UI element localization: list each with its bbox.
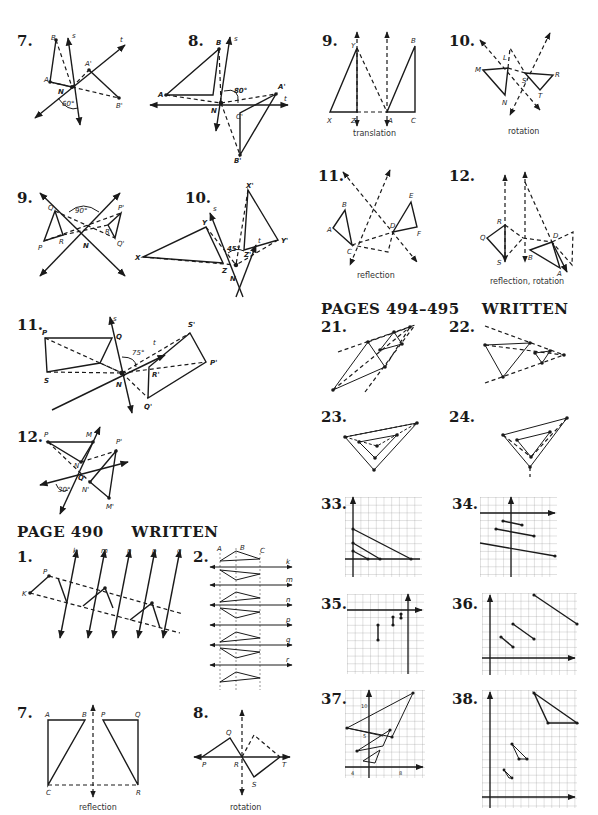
svg-text:t: t <box>120 36 123 44</box>
figure-21 <box>330 322 420 397</box>
figure-right-12: QR SD BA <box>475 170 585 275</box>
svg-text:C: C <box>46 789 51 797</box>
svg-text:n: n <box>286 596 290 604</box>
figure-left-7: BA A'B' N st 60° <box>30 30 140 130</box>
svg-text:M': M' <box>106 503 114 511</box>
svg-text:P': P' <box>210 359 217 367</box>
svg-text:N: N <box>83 242 89 250</box>
figure-right-9: XY ZA BC <box>325 30 425 130</box>
svg-text:Q': Q' <box>117 240 125 248</box>
svg-text:5: 5 <box>363 733 366 739</box>
svg-text:P: P <box>101 711 106 719</box>
svg-text:B: B <box>216 39 221 47</box>
svg-text:p: p <box>151 547 157 555</box>
graph-33 <box>345 497 422 577</box>
svg-text:Y: Y <box>202 219 208 227</box>
figure-left-11: PQ SN S'P' R'Q' ts 75° <box>40 315 220 415</box>
svg-text:Y': Y' <box>281 237 288 245</box>
svg-text:X: X <box>326 117 332 125</box>
svg-text:q: q <box>177 547 182 555</box>
svg-text:R': R' <box>105 228 112 236</box>
svg-text:s: s <box>72 32 76 40</box>
svg-text:C: C <box>347 248 352 256</box>
svg-text:D: D <box>553 232 559 240</box>
svg-text:D: D <box>390 222 396 230</box>
svg-text:80°: 80° <box>234 87 247 95</box>
svg-text:Z': Z' <box>243 251 251 259</box>
svg-text:P': P' <box>118 204 124 212</box>
figure-24 <box>500 415 580 480</box>
svg-text:s: s <box>234 35 238 43</box>
exercise-number: 9. <box>17 189 33 207</box>
svg-text:A': A' <box>84 60 92 68</box>
caption: reflection <box>357 271 395 280</box>
svg-text:Z: Z <box>221 267 228 275</box>
svg-text:k: k <box>286 558 291 566</box>
svg-text:60°: 60° <box>62 100 74 108</box>
svg-text:r: r <box>286 656 290 664</box>
svg-text:90°: 90° <box>75 207 87 215</box>
exercise-number: 7. <box>17 704 33 722</box>
svg-text:B': B' <box>234 157 241 165</box>
svg-text:Q': Q' <box>144 403 152 411</box>
exercise-number: 38. <box>452 690 478 708</box>
svg-text:A: A <box>326 226 332 234</box>
svg-text:X': X' <box>245 182 254 190</box>
svg-text:K: K <box>22 590 28 598</box>
svg-text:s: s <box>113 315 117 323</box>
svg-text:C: C <box>260 547 265 555</box>
svg-text:P: P <box>202 761 207 769</box>
exercise-number: 24. <box>449 408 475 426</box>
svg-text:B: B <box>528 254 533 262</box>
svg-text:B: B <box>240 544 245 552</box>
svg-text:10: 10 <box>361 703 367 709</box>
exercise-number: 2. <box>193 548 209 566</box>
svg-text:30°: 30° <box>58 486 70 494</box>
figure-22 <box>482 323 572 388</box>
svg-text:P: P <box>42 329 48 337</box>
figure-w-1: KP km np q <box>25 548 185 643</box>
svg-text:P: P <box>43 568 48 576</box>
svg-text:Q: Q <box>135 711 141 719</box>
figure-right-11: AB CD EF <box>325 170 425 270</box>
svg-text:N: N <box>116 381 122 389</box>
figure-w-7: AB PQ CR <box>40 705 150 800</box>
triangle-stack <box>210 551 292 682</box>
graph-38 <box>482 690 577 808</box>
svg-text:R: R <box>234 761 239 769</box>
svg-text:T: T <box>538 92 543 100</box>
svg-text:A: A <box>43 76 49 84</box>
svg-text:R: R <box>555 71 560 79</box>
svg-text:P: P <box>38 244 43 252</box>
exercise-number: 22. <box>449 318 475 336</box>
svg-text:R: R <box>497 218 502 226</box>
svg-text:B: B <box>51 34 56 42</box>
graph-37: 10 5 4 8 <box>345 690 425 778</box>
svg-text:4: 4 <box>351 770 354 776</box>
exercise-number: 34. <box>452 495 478 513</box>
figure-23 <box>342 420 432 475</box>
graph-35 <box>347 594 424 674</box>
exercise-number: 33. <box>321 495 347 513</box>
svg-text:M: M <box>86 431 92 439</box>
svg-text:N: N <box>74 462 80 470</box>
exercise-number: 35. <box>321 595 347 613</box>
exercise-number: 12. <box>449 167 475 185</box>
svg-text:A': A' <box>277 83 286 91</box>
svg-text:N: N <box>502 99 508 107</box>
svg-text:N: N <box>211 107 217 115</box>
svg-text:S': S' <box>188 321 195 329</box>
caption: reflection, rotation <box>490 277 564 286</box>
section-heading: PAGE 490WRITTEN <box>17 523 218 541</box>
svg-text:q: q <box>286 636 291 644</box>
svg-text:B: B <box>342 201 347 209</box>
svg-text:P: P <box>44 431 49 439</box>
svg-text:Q: Q <box>480 234 486 242</box>
svg-text:A: A <box>387 117 393 125</box>
svg-text:A: A <box>157 91 163 99</box>
svg-text:Q: Q <box>48 204 54 212</box>
svg-text:X: X <box>134 254 141 262</box>
svg-text:R: R <box>59 238 64 246</box>
figure-left-12: PM NQ P'N' M' 30° <box>38 422 138 517</box>
svg-text:m: m <box>286 576 293 584</box>
